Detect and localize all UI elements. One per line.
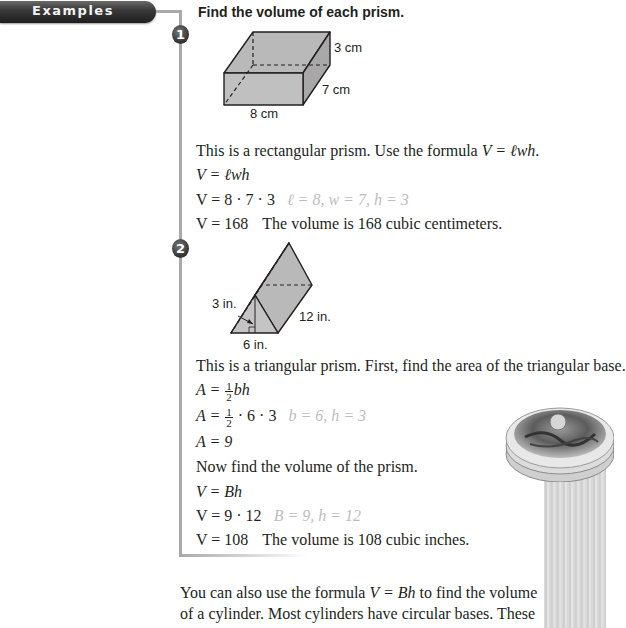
closing-formula: V = Bh bbox=[369, 584, 415, 601]
step-expr: V = ℓwh bbox=[196, 166, 250, 183]
step-conclusion: The volume is 168 cubic centimeters. bbox=[262, 215, 502, 232]
closing-text-after: to find the volume bbox=[416, 584, 538, 601]
frac-den: 2 bbox=[225, 418, 233, 428]
step-rest: bh bbox=[234, 381, 250, 398]
frac-den: 2 bbox=[225, 392, 233, 402]
connector-vertical bbox=[179, 10, 182, 556]
cylinder-photo-column bbox=[544, 468, 606, 628]
label-length-8cm: 8 cm bbox=[250, 106, 278, 121]
examples-header-label: Examples bbox=[32, 3, 114, 18]
step-lhs: A = bbox=[196, 381, 224, 398]
instructions-heading: Find the volume of each prism. bbox=[198, 4, 404, 20]
step-conclusion: The volume is 108 cubic inches. bbox=[262, 531, 469, 548]
example1-step-3: V = 168The volume is 168 cubic centimete… bbox=[196, 214, 502, 234]
fraction-one-half: 12 bbox=[225, 407, 233, 428]
example2-area-step-2: A = 12 · 6 · 3b = 6, h = 3 bbox=[196, 406, 366, 428]
example2-intro: This is a triangular prism. First, find … bbox=[196, 356, 626, 376]
example-number-badge-2: 2 bbox=[172, 239, 189, 258]
example2-area-step-3: A = 9 bbox=[196, 432, 232, 452]
example1-step-1: V = ℓwh bbox=[196, 165, 250, 185]
example2-volume-step-2: V = 9 · 12B = 9, h = 12 bbox=[196, 506, 361, 526]
label-length-12in: 12 in. bbox=[299, 309, 331, 324]
connector-bottom bbox=[179, 554, 309, 557]
step-note: B = 9, h = 12 bbox=[274, 507, 361, 524]
closing-line-2: of a cylinder. Most cylinders have circu… bbox=[180, 604, 535, 624]
intro-formula: V = ℓwh bbox=[482, 142, 536, 159]
fraction-one-half: 12 bbox=[225, 381, 233, 402]
example2-volume-intro: Now find the volume of the prism. bbox=[196, 457, 418, 477]
example2-volume-step-3: V = 108The volume is 108 cubic inches. bbox=[196, 530, 469, 550]
label-height-3cm: 3 cm bbox=[334, 40, 362, 55]
step-rest: · 6 · 3 bbox=[234, 407, 277, 424]
intro-text: This is a rectangular prism. Use the for… bbox=[196, 142, 482, 159]
rectangular-prism-figure bbox=[215, 25, 350, 125]
step-expr: V = 168 bbox=[196, 215, 248, 232]
example-number-badge-1: 1 bbox=[172, 25, 189, 44]
example2-area-step-1: A = 12bh bbox=[196, 380, 250, 402]
step-lhs: A = bbox=[196, 407, 224, 424]
closing-line-1: You can also use the formula V = Bh to f… bbox=[180, 583, 537, 603]
step-expr: V = 108 bbox=[196, 531, 248, 548]
step-expr: V = 9 · 12 bbox=[196, 507, 262, 524]
example1-step-2: V = 8 · 7 · 3ℓ = 8, w = 7, h = 3 bbox=[196, 190, 409, 210]
step-expr: V = 8 · 7 · 3 bbox=[196, 191, 275, 208]
label-height-3in: 3 in. bbox=[212, 296, 237, 311]
example2-volume-step-1: V = Bh bbox=[196, 482, 242, 502]
intro-period: . bbox=[535, 142, 539, 159]
closing-text: You can also use the formula bbox=[180, 584, 369, 601]
example1-intro: This is a rectangular prism. Use the for… bbox=[196, 141, 539, 161]
label-base-6in: 6 in. bbox=[243, 337, 268, 352]
step-note: b = 6, h = 3 bbox=[288, 407, 366, 424]
step-note: ℓ = 8, w = 7, h = 3 bbox=[287, 191, 409, 208]
cylinder-photo-top bbox=[500, 392, 614, 482]
label-width-7cm: 7 cm bbox=[322, 82, 350, 97]
